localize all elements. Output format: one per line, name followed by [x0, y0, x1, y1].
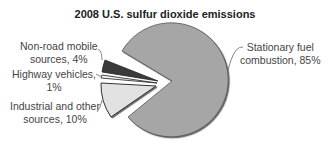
label-stationary-fuel-combustion: Stationary fuel combustion, 85%	[240, 41, 321, 67]
label-industrial-other: Industrial and other sources, 10%	[10, 100, 100, 126]
label-line: 1%	[12, 81, 96, 94]
label-line: combustion, 85%	[240, 54, 321, 67]
leader-line-highway	[96, 74, 102, 76]
label-non-road-mobile: Non-road mobile sources, 4%	[20, 40, 98, 66]
label-line: sources, 4%	[20, 53, 98, 66]
label-line: Industrial and other	[10, 100, 100, 113]
label-line: sources, 10%	[10, 113, 100, 126]
leader-line-non-road	[98, 49, 102, 60]
label-line: Stationary fuel	[240, 41, 321, 54]
label-line: Highway vehicles,	[12, 68, 96, 81]
label-highway-vehicles: Highway vehicles, 1%	[12, 68, 96, 94]
label-line: Non-road mobile	[20, 40, 98, 53]
